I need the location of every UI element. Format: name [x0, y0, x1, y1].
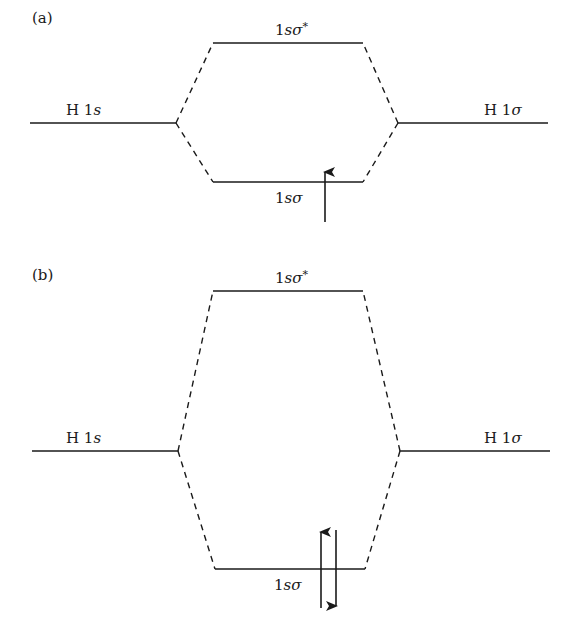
panel-a-correlation-line [363, 43, 398, 123]
panel-a-correlation-line [176, 43, 213, 123]
panel-a-antibonding-label: 1sσ* [275, 20, 308, 39]
panel-a-correlation-line [363, 123, 398, 182]
panel-b-left-atom-label: H 1s [66, 429, 101, 447]
panel-a-right-atom-label: H 1σ [484, 101, 522, 119]
panel-a-left-atom-label: H 1s [66, 101, 101, 119]
panel-b-right-atom-label: H 1σ [484, 429, 522, 447]
panel-b-correlation-line [363, 291, 400, 451]
panel-b-bonding-label: 1sσ [274, 576, 302, 594]
panel-b-antibonding-label: 1sσ* [275, 268, 308, 287]
panel-b-correlation-line [178, 291, 213, 451]
panel-a-label: (a) [32, 9, 53, 27]
panel-b: (b) H 1s H 1σ 1sσ* 1sσ [32, 266, 550, 608]
panel-b-correlation-line [178, 451, 215, 569]
panel-a: (a) H 1s H 1σ 1sσ* 1sσ [30, 9, 548, 222]
panel-b-correlation-line [365, 451, 400, 569]
panel-b-label: (b) [32, 266, 53, 284]
panel-a-correlation-line [176, 123, 213, 182]
mo-diagram: (a) H 1s H 1σ 1sσ* 1sσ (b) H 1s H 1σ 1sσ… [0, 0, 578, 629]
panel-a-bonding-label: 1sσ [275, 189, 303, 207]
